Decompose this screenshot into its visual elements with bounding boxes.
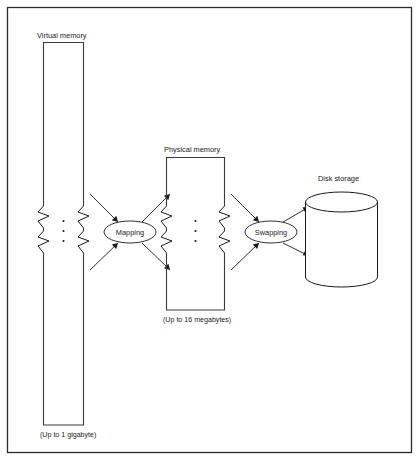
- disk-cylinder-body: [306, 202, 378, 287]
- virtual-memory-diagram: Virtual memory (Up to 1 gigabyte): [0, 0, 419, 460]
- ellipsis-dot-icon: [62, 230, 64, 232]
- physical-memory-node: Physical memory (Up to 16 megabytes): [161, 145, 231, 324]
- connector-line: [90, 194, 118, 222]
- connector-line: [231, 194, 259, 222]
- break-mark-icon: [78, 206, 89, 228]
- break-mark-icon: [219, 231, 230, 253]
- diagram-canvas: Virtual memory (Up to 1 gigabyte): [0, 0, 419, 460]
- ellipsis-dot-icon: [194, 240, 196, 242]
- break-mark-icon: [161, 231, 172, 253]
- swapping-node: Swapping: [245, 221, 297, 243]
- break-mark-icon: [38, 231, 49, 253]
- ellipsis-dot-icon: [62, 240, 64, 242]
- ellipsis-dot-icon: [62, 220, 64, 222]
- ellipsis-dot-icon: [194, 230, 196, 232]
- connector-line: [231, 243, 259, 270]
- virtual-memory-capacity-caption: (Up to 1 gigabyte): [40, 431, 96, 439]
- physical-memory-label: Physical memory: [164, 145, 221, 154]
- break-mark-icon: [78, 231, 89, 253]
- disk-storage-node: Disk storage: [306, 174, 378, 287]
- connector-line: [142, 194, 170, 222]
- break-mark-icon: [38, 206, 49, 228]
- virtual-memory-node: Virtual memory (Up to 1 gigabyte): [37, 31, 96, 439]
- virtual-memory-label: Virtual memory: [37, 31, 87, 40]
- disk-cylinder-top: [306, 192, 378, 212]
- mapping-label: Mapping: [116, 228, 144, 237]
- physical-memory-capacity-caption: (Up to 16 megabytes): [163, 316, 231, 324]
- swapping-label: Swapping: [255, 228, 287, 237]
- mapping-node: Mapping: [104, 221, 156, 243]
- connector-line: [90, 243, 118, 270]
- ellipsis-dot-icon: [194, 220, 196, 222]
- connector-line: [142, 243, 170, 270]
- disk-storage-label: Disk storage: [318, 174, 359, 183]
- break-mark-icon: [161, 206, 172, 228]
- break-mark-icon: [219, 206, 230, 228]
